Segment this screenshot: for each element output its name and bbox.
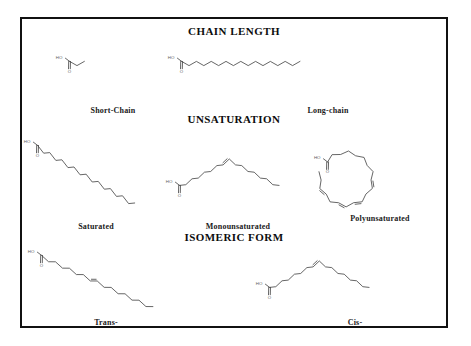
molecule-trans: HOO Trans- [30,246,230,336]
section-heading-unsaturation: UNSATURATION [22,113,446,126]
structure-polyunsaturated: HOO [314,146,378,212]
structure-saturated: HOO [26,136,140,209]
molecule-cis: HOO Cis- [258,256,444,340]
structure-monounsaturated: HOO [168,154,284,200]
svg-text:O: O [36,153,40,158]
svg-text:HO: HO [256,281,263,286]
section-chain-length: CHAIN LENGTH HOO Short-Chain HOO Long-ch… [22,25,446,117]
molecule-label-cis: Cis- [300,318,410,328]
structure-long-chain: HOO [170,52,305,76]
svg-text:O: O [180,69,184,74]
svg-text:HO: HO [24,139,31,144]
molecule-label-polyunsaturated: Polyunsaturated [314,214,446,224]
structure-cis: HOO [258,256,374,302]
molecule-polyunsaturated: HOO Polyunsaturated [314,146,446,236]
svg-text:HO: HO [166,179,173,184]
molecule-label-trans: Trans- [58,318,154,328]
section-unsaturation: UNSATURATION HOO Saturated HOO Monounsat… [22,113,446,231]
structure-short-chain: HOO [58,52,89,76]
svg-text:O: O [40,263,44,268]
section-heading-isomeric-form: ISOMERIC FORM [22,231,446,244]
molecule-short-chain: HOO Short-Chain [58,52,168,108]
svg-text:O: O [268,295,272,300]
section-heading-chain-length: CHAIN LENGTH [22,25,446,38]
molecule-long-chain: HOO Long-chain [170,52,432,108]
svg-text:HO: HO [56,55,63,60]
structure-trans: HOO [30,246,158,312]
figure-frame: CHAIN LENGTH HOO Short-Chain HOO Long-ch… [20,17,448,328]
svg-text:O: O [68,69,72,74]
section-isomeric-form: ISOMERIC FORM HOO Trans- HOO Cis- [22,231,446,328]
molecule-saturated: HOO Saturated [26,136,166,236]
svg-text:O: O [326,169,330,174]
svg-text:HO: HO [28,249,35,254]
svg-text:HO: HO [314,155,321,160]
svg-text:HO: HO [168,55,175,60]
svg-text:O: O [178,193,182,198]
molecule-monounsaturated: HOO Monounsaturated [168,154,308,236]
